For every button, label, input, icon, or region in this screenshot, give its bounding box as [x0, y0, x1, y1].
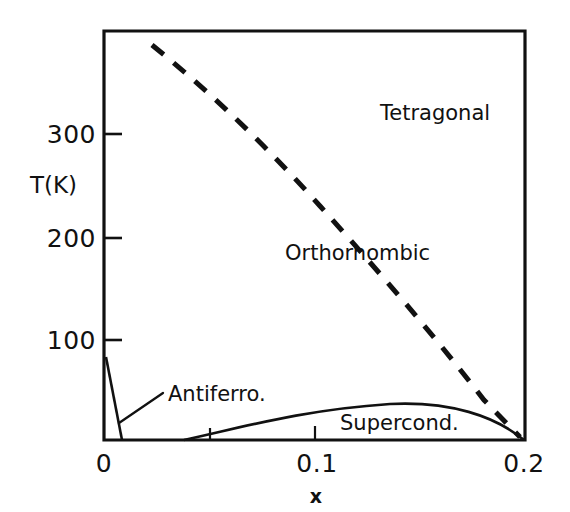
plot-frame [104, 31, 525, 440]
y-axis-title: T(K) [29, 172, 77, 198]
antiferromagnetic-boundary [106, 357, 122, 440]
x-axis-title: x [310, 485, 322, 507]
y-axis-ticks [104, 134, 122, 340]
y-tick-label-100: 100 [47, 326, 96, 355]
region-label-orthorhombic: Orthorhombic [285, 241, 430, 265]
x-tick-label-0: 0 [96, 449, 112, 478]
x-tick-label-0.1: 0.1 [296, 449, 337, 478]
region-label-tetragonal: Tetragonal [379, 101, 490, 125]
region-label-supercond: Supercond. [340, 411, 459, 435]
phase-diagram-figure: 300 200 100 0 0.1 0.2 T(K) x Tetragonal … [0, 0, 570, 512]
axes-border [104, 31, 525, 440]
region-label-antiferro: Antiferro. [168, 382, 266, 406]
antiferro-leader-line [119, 393, 163, 423]
x-tick-label-0.2: 0.2 [503, 449, 544, 478]
phase-diagram-svg: 300 200 100 0 0.1 0.2 T(K) x Tetragonal … [0, 0, 570, 512]
y-tick-label-200: 200 [47, 224, 96, 253]
y-tick-label-300: 300 [47, 120, 96, 149]
x-axis-ticks [210, 426, 315, 440]
